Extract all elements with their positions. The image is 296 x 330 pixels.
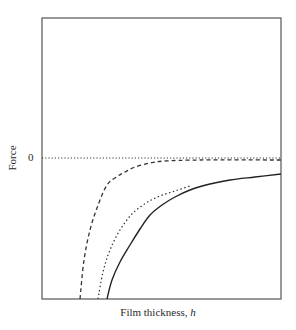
force-vs-thickness-chart <box>0 0 296 330</box>
x-axis-label-variable: h <box>190 306 196 318</box>
y-axis-label: Force <box>6 145 18 170</box>
dashed-curve <box>80 160 281 299</box>
x-axis-label-text: Film thickness, <box>120 306 190 318</box>
solid-curve <box>107 174 281 299</box>
x-axis-label: Film thickness, h <box>120 306 195 318</box>
y-tick-zero: 0 <box>28 151 34 163</box>
